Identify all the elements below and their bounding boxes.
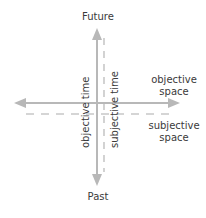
subjective-space-line1: subjective xyxy=(146,120,202,132)
objective-space-line1: objective xyxy=(146,74,202,86)
subjective-space-label: subjective space xyxy=(146,120,202,144)
objective-time-axis xyxy=(92,28,102,186)
objective-space-line2: space xyxy=(146,86,202,98)
subjective-space-line2: space xyxy=(146,132,202,144)
future-label: Future xyxy=(78,11,118,23)
past-label: Past xyxy=(78,191,118,203)
subjective-time-label: subjective time xyxy=(109,71,121,148)
objective-time-label: objective time xyxy=(80,77,92,148)
objective-space-label: objective space xyxy=(146,74,202,98)
axes-diagram xyxy=(0,0,206,218)
